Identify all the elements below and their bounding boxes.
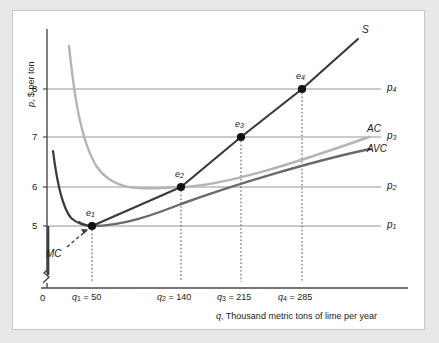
x-tick-label-q3: q3 = 215 (217, 293, 251, 302)
origin-label: 0 (40, 293, 45, 303)
average-cost-curve (69, 46, 369, 188)
marginal-cost-curve-label: MC (46, 249, 62, 259)
y-tick-label-6: 6 (32, 182, 37, 192)
average-variable-cost-curve (79, 149, 370, 226)
average-variable-cost-curve-label: AVC (367, 144, 387, 154)
supply-curve-label: S (362, 25, 369, 35)
y-axis-title-variable: p (26, 102, 36, 107)
price-label-p4: p4 (387, 83, 396, 93)
equilibrium-label-e2: e2 (175, 170, 184, 179)
average-cost-curve-label: AC (367, 124, 381, 134)
equilibrium-point-e2 (177, 183, 185, 191)
x-tick-label-q4: q4 = 285 (278, 293, 312, 302)
y-tick-label-8: 8 (32, 84, 37, 94)
price-label-p3: p3 (387, 131, 396, 141)
equilibrium-point-e1 (88, 222, 96, 230)
price-label-p2: p2 (387, 181, 396, 191)
supply-cost-chart-graphic (13, 11, 424, 329)
figure-root: p, $ per ton 8 7 6 5 0 S AC AVC MC e1 e2… (0, 0, 439, 343)
x-axis-title: q, Thousand metric tons of lime per year (216, 312, 377, 321)
supply-rising-segment (92, 39, 358, 226)
y-tick-label-5: 5 (32, 221, 37, 231)
mc-leader-arrowhead (81, 229, 88, 234)
equilibrium-label-e3: e3 (235, 120, 244, 129)
equilibrium-point-e4 (298, 85, 306, 93)
chart-panel: p, $ per ton 8 7 6 5 0 S AC AVC MC e1 e2… (12, 10, 425, 330)
equilibrium-markers (88, 85, 306, 230)
equilibrium-label-e1: e1 (86, 209, 95, 218)
price-label-p1: p1 (387, 220, 396, 230)
x-axis-title-rest: , Thousand metric tons of lime per year (221, 311, 377, 321)
y-axis-title-rest: , $ per ton (26, 61, 36, 102)
equilibrium-point-e3 (237, 133, 245, 141)
y-tick-label-7: 7 (32, 132, 37, 142)
x-tick-label-q1: q1 = 50 (72, 293, 101, 302)
x-tick-label-q2: q2 = 140 (157, 293, 191, 302)
equilibrium-label-e4: e4 (296, 72, 305, 81)
